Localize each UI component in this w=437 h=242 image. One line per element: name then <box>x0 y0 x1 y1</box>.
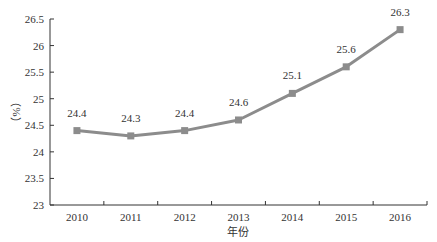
x-axis-label: 年份 <box>227 225 249 238</box>
square-marker-icon <box>235 116 242 123</box>
y-tick-label: 23.5 <box>25 172 45 184</box>
square-marker-icon <box>289 90 296 97</box>
y-tick-label: 26.5 <box>25 13 45 25</box>
x-tick-label: 2015 <box>335 211 358 223</box>
y-tick-label: 24.5 <box>25 119 45 131</box>
y-tick-label: 25.5 <box>25 66 45 78</box>
data-label: 26.3 <box>390 6 410 18</box>
y-tick-label: 26 <box>33 40 45 52</box>
data-label: 25.6 <box>337 43 357 55</box>
x-tick-label: 2014 <box>281 211 304 223</box>
x-tick-label: 2010 <box>66 211 89 223</box>
square-marker-icon <box>343 63 350 70</box>
x-tick-label: 2011 <box>120 211 142 223</box>
data-label: 24.6 <box>229 96 249 108</box>
x-tick-label: 2013 <box>228 211 251 223</box>
y-tick-label: 25 <box>33 93 45 105</box>
square-marker-icon <box>73 127 80 134</box>
data-label: 25.1 <box>283 69 302 81</box>
square-marker-icon <box>181 127 188 134</box>
line-chart: 2323.52424.52525.52626.5 201020112012201… <box>0 0 437 242</box>
data-label: 24.4 <box>175 107 195 119</box>
x-tick-label: 2012 <box>174 211 196 223</box>
square-marker-icon <box>397 26 404 33</box>
x-axis-ticks: 2010201120122013201420152016 <box>66 201 427 223</box>
square-marker-icon <box>127 132 134 139</box>
chart-axes <box>50 19 427 205</box>
data-label: 24.4 <box>67 107 87 119</box>
y-tick-label: 23 <box>33 199 45 211</box>
y-axis-label: （%） <box>10 96 22 127</box>
y-tick-label: 24 <box>33 146 45 158</box>
data-labels: 24.424.324.424.625.125.626.3 <box>67 6 410 124</box>
x-tick-label: 2016 <box>389 211 412 223</box>
data-label: 24.3 <box>121 112 141 124</box>
